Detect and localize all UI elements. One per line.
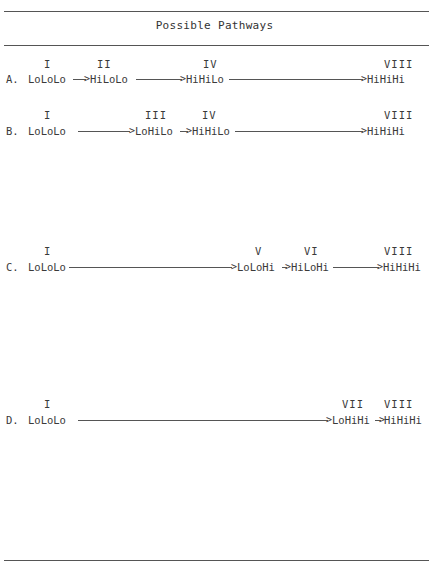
- state-label: LoLoLo: [28, 414, 66, 426]
- state-label: HiLoLo: [90, 73, 128, 85]
- stage-numeral: VIII: [384, 58, 413, 70]
- stage-numeral: I: [44, 245, 51, 257]
- arrow-line: [78, 420, 328, 421]
- state-label: HiHiHi: [367, 73, 405, 85]
- stage-numeral: I: [44, 58, 51, 70]
- table-title: Possible Pathways: [0, 19, 429, 32]
- arrow-line: [69, 267, 232, 268]
- table-top-rule: [4, 11, 429, 12]
- state-label: HiHiLo: [186, 73, 224, 85]
- state-label: LoLoLo: [28, 261, 66, 273]
- stage-numeral: III: [145, 109, 167, 121]
- state-label: LoLoLo: [28, 73, 66, 85]
- pathway-label: B.: [6, 125, 19, 137]
- stage-numeral: VIII: [384, 109, 413, 121]
- stage-numeral: I: [44, 398, 51, 410]
- stage-numeral: IV: [202, 109, 217, 121]
- state-label: LoLoHi: [237, 261, 275, 273]
- pathway-label: A.: [6, 73, 19, 85]
- stage-numeral: VIII: [384, 398, 413, 410]
- arrow-line: [333, 267, 379, 268]
- pathway-label: D.: [6, 414, 19, 426]
- state-label: HiHiHi: [384, 414, 422, 426]
- state-label: HiLoHi: [291, 261, 329, 273]
- stage-numeral: I: [44, 109, 51, 121]
- arrow-line: [78, 131, 130, 132]
- state-label: LoHiHi: [332, 414, 370, 426]
- state-label: LoLoLo: [28, 125, 66, 137]
- state-label: HiHiHi: [383, 261, 421, 273]
- state-label: LoHiLo: [135, 125, 173, 137]
- state-label: HiHiHi: [367, 125, 405, 137]
- stage-numeral: V: [255, 245, 262, 257]
- stage-numeral: II: [97, 58, 112, 70]
- stage-numeral: VIII: [384, 245, 413, 257]
- pathway-label: C.: [6, 261, 19, 273]
- table-header-rule: [4, 45, 429, 46]
- stage-numeral: IV: [203, 58, 218, 70]
- arrow-line: [235, 131, 363, 132]
- arrow-line: [229, 79, 363, 80]
- stage-numeral: VI: [304, 245, 319, 257]
- stage-numeral: VII: [342, 398, 364, 410]
- state-label: HiHiLo: [192, 125, 230, 137]
- arrow-line: [136, 79, 182, 80]
- table-bottom-rule: [4, 560, 429, 561]
